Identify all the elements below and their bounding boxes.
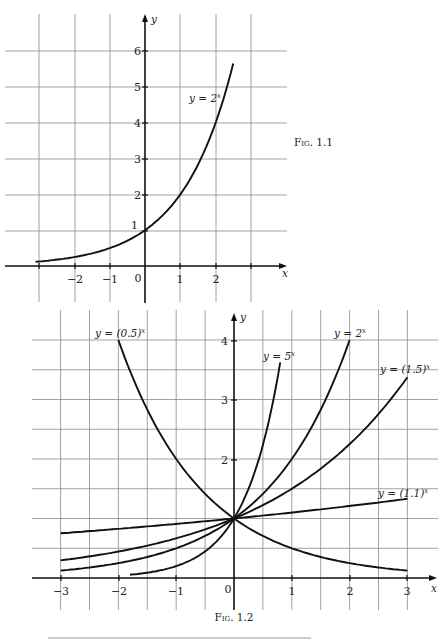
figure-caption: Fig. 1.2 — [214, 611, 253, 623]
x-tick-label: −1 — [102, 273, 118, 286]
x-tick-label: 0 — [225, 583, 232, 596]
x-axis-label: x — [431, 582, 437, 594]
x-axis-arrow-icon — [429, 575, 437, 581]
y-tick-label: 1 — [131, 219, 138, 232]
y-tick-label: 2 — [221, 454, 228, 467]
figure-caption: Fig. 1.1 — [294, 136, 333, 148]
y-axis-label: y — [239, 311, 247, 323]
page: −2 −1 0 1 2 1 2 3 4 5 6 x y y = 2x Fig. … — [0, 0, 444, 640]
x-tick-label: −3 — [53, 585, 69, 598]
x-axis-label: x — [282, 267, 288, 279]
y-tick-label: 2 — [134, 189, 141, 202]
figure-1-1: −2 −1 0 1 2 1 2 3 4 5 6 x y y = 2x Fig. … — [5, 13, 333, 303]
y-tick-label: 4 — [221, 335, 228, 348]
x-tick-label: −2 — [111, 585, 127, 598]
y-tick-label: 4 — [134, 117, 141, 130]
curve-label: y = (1.5)x — [379, 363, 430, 375]
curve-label: y = 2x — [333, 327, 366, 339]
y-tick-label: 3 — [221, 394, 228, 407]
y-tick-label: 5 — [134, 81, 141, 94]
y-tick-label: 3 — [134, 153, 141, 166]
grid-fig1 — [5, 14, 287, 302]
y-axis-label: y — [150, 13, 158, 25]
x-tick-label: 3 — [404, 585, 411, 598]
y-axis-arrow-icon — [142, 14, 148, 22]
x-tick-label: 2 — [213, 273, 220, 286]
figure-1-2: −3 −2 −1 0 1 2 3 2 3 4 x y y = (0.5)x y … — [32, 310, 438, 638]
curve-label: y = 5x — [262, 350, 295, 362]
x-tick-label: 0 — [135, 272, 142, 285]
x-tick-label: −1 — [168, 585, 184, 598]
x-tick-label: 1 — [289, 585, 296, 598]
y-axis-arrow-icon — [231, 313, 237, 321]
x-tick-label: −2 — [67, 273, 83, 286]
curve-label: y = 2x — [188, 92, 221, 104]
x-tick-label: 1 — [177, 273, 184, 286]
y-tick-label: 6 — [134, 45, 141, 58]
curve-label: y = (0.5)x — [94, 327, 145, 339]
x-tick-label: 2 — [347, 585, 354, 598]
curve-label: y = (1.1)x — [377, 487, 428, 499]
